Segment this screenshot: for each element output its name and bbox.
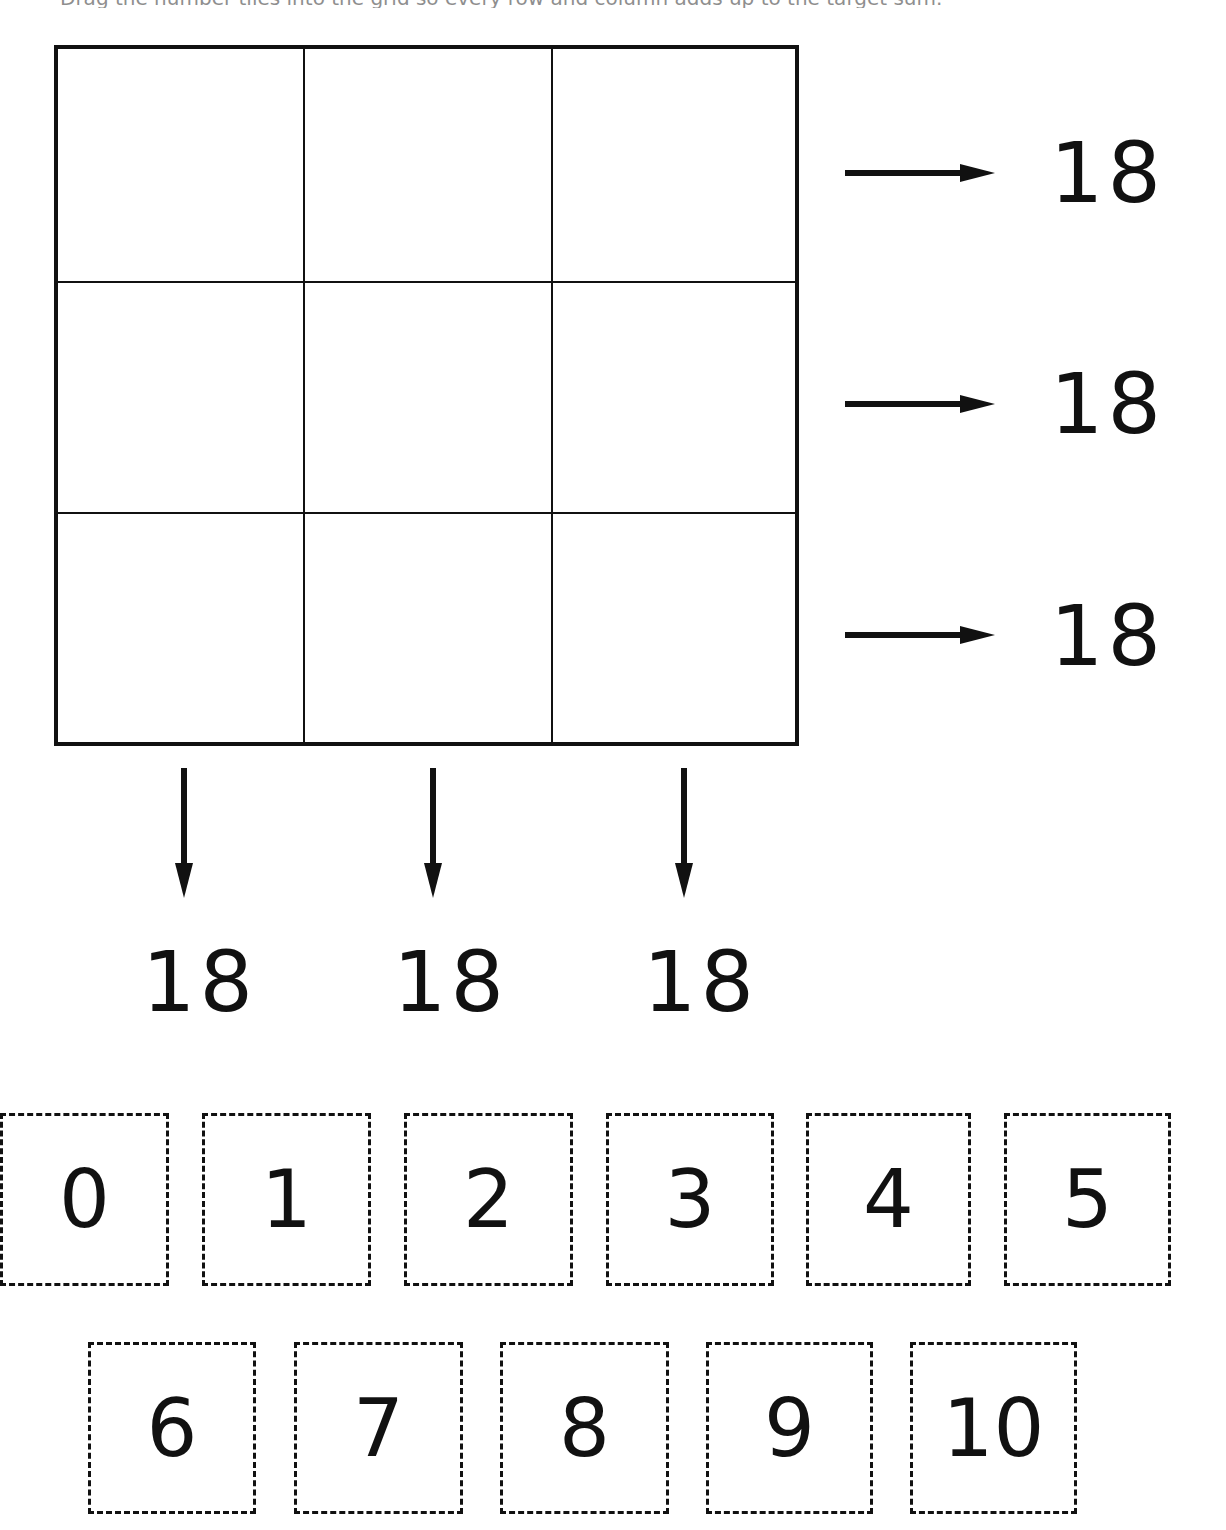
column-sum-3: 18 [643,940,758,1024]
number-tile-1[interactable]: 1 [202,1113,371,1286]
number-tile-2[interactable]: 2 [404,1113,573,1286]
row-sum-3: 18 [1050,594,1165,678]
right-arrow-icon [845,394,995,414]
number-tile-4[interactable]: 4 [806,1113,971,1286]
number-tile-10[interactable]: 10 [910,1342,1077,1514]
grid-cell-r1c2[interactable] [305,49,553,283]
grid-cell-r1c3[interactable] [553,49,795,283]
number-tile-6[interactable]: 6 [88,1342,256,1514]
grid-cell-r3c3[interactable] [553,514,795,742]
instruction-text: Drag the number tiles into the grid so e… [60,0,1160,8]
magic-square-grid [54,45,799,746]
number-tile-9[interactable]: 9 [706,1342,873,1514]
right-arrow-icon [845,163,995,183]
grid-cell-r2c3[interactable] [553,283,795,514]
down-arrow-icon [674,768,694,898]
column-sum-1: 18 [142,940,257,1024]
grid-cell-r1c1[interactable] [58,49,305,283]
number-tile-0[interactable]: 0 [0,1113,169,1286]
column-sum-2: 18 [393,940,508,1024]
right-arrow-icon [845,625,995,645]
number-tile-3[interactable]: 3 [606,1113,774,1286]
number-tile-8[interactable]: 8 [500,1342,669,1514]
grid-cell-r3c2[interactable] [305,514,553,742]
grid-cell-r2c2[interactable] [305,283,553,514]
row-sum-2: 18 [1050,362,1165,446]
number-tile-7[interactable]: 7 [294,1342,463,1514]
grid-cell-r3c1[interactable] [58,514,305,742]
number-tile-5[interactable]: 5 [1004,1113,1171,1286]
down-arrow-icon [174,768,194,898]
row-sum-1: 18 [1050,131,1165,215]
down-arrow-icon [423,768,443,898]
grid-cell-r2c1[interactable] [58,283,305,514]
